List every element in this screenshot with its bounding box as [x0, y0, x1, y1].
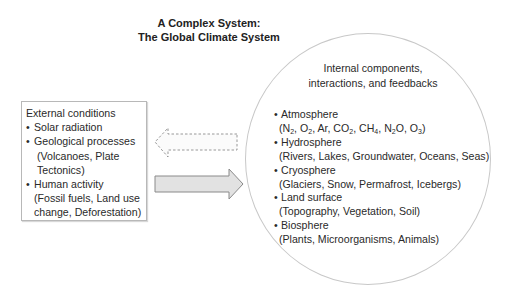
solid-right-arrow-icon [155, 169, 243, 199]
internal-item-hydrosphere: Hydrosphere (Rivers, Lakes, Groundwater,… [274, 136, 489, 164]
internal-item-biosphere: Biosphere (Plants, Microorganisms, Anima… [274, 219, 489, 247]
internal-item-atmosphere: Atmosphere (N2, O2, Ar, CO2, CH4, N2O, O… [274, 108, 489, 136]
internal-components-list: Atmosphere (N2, O2, Ar, CO2, CH4, N2O, O… [274, 108, 489, 247]
internal-components-heading: Internal components, interactions, and f… [300, 61, 446, 91]
dashed-left-arrow-icon [155, 128, 237, 157]
internal-item-cryosphere: Cryosphere (Glaciers, Snow, Permafrost, … [274, 164, 489, 192]
internal-item-land-surface: Land surface (Topography, Vegetation, So… [274, 191, 489, 219]
atmosphere-gases: (N2, O2, Ar, CO2, CH4, N2O, O3) [279, 122, 489, 136]
